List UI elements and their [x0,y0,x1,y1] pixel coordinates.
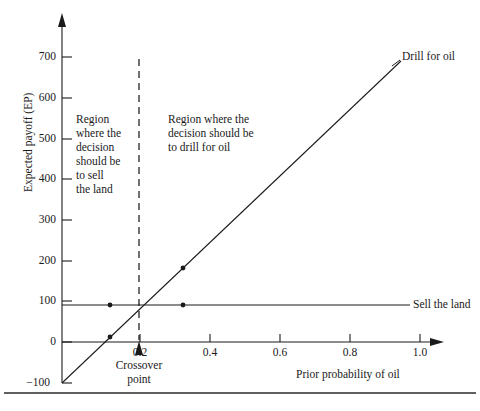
y-axis-ticks [62,57,72,383]
series-sell-the-land [62,303,397,308]
y-tick-label-100: 100 [22,294,56,307]
data-point-sell-0 [108,303,113,308]
y-tick-label-500: 500 [22,132,56,145]
x-tick-label-0-6: 0.6 [260,346,300,359]
series-label-drill-for-oil: Drill for oil [402,50,455,63]
crossover-dashed-line [135,59,143,355]
expected-payoff-chart: Expected payoff (EP) 700 600 500 400 300… [0,0,480,411]
region-sell-annotation: Region where the decision should be to s… [76,112,121,196]
x-axis-ticks [140,334,420,342]
y-axis [58,13,66,383]
y-tick-label-0: 0 [22,335,56,348]
x-tick-label-0-4: 0.4 [190,346,230,359]
y-tick-label-400: 400 [22,172,56,185]
crossover-point-label: Crossover point [99,359,179,386]
y-tick-label-600: 600 [22,91,56,104]
x-axis-title: Prior probability of oil [296,368,400,381]
series-label-sell-the-land: Sell the land [413,298,471,311]
data-point-drill-1 [181,266,186,271]
y-tick-label-200: 200 [22,254,56,267]
y-tick-label-700: 700 [22,50,56,63]
x-axis [62,338,444,346]
y-tick-label-neg100: −100 [16,376,50,389]
x-tick-label-0-2: 0.2 [120,346,160,359]
data-point-sell-1 [181,303,186,308]
data-point-drill-0 [108,335,113,340]
region-drill-annotation: Region where the decision should be to d… [168,112,254,154]
y-tick-label-300: 300 [22,213,56,226]
x-tick-label-1-0: 1.0 [400,346,440,359]
x-tick-label-0-8: 0.8 [330,346,370,359]
